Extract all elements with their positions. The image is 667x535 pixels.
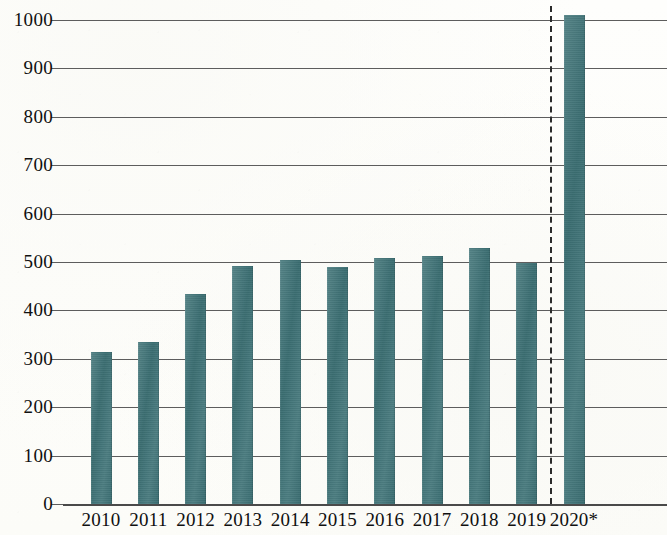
bar-2011	[138, 342, 159, 504]
bar-2016	[374, 258, 395, 504]
bar-2014	[280, 260, 301, 504]
bars-layer	[0, 0, 667, 535]
bar-2012	[185, 294, 206, 504]
bar-2018	[469, 248, 490, 504]
bar-2015	[327, 267, 348, 504]
bar-2010	[91, 352, 112, 504]
forecast-divider-dashed-line	[550, 6, 552, 504]
bar-2019	[516, 263, 537, 504]
bar-chart: 01002003004005006007008009001000 2010201…	[0, 0, 667, 535]
bar-2013	[232, 266, 253, 504]
bar-2020-projected	[564, 15, 585, 504]
x-axis-label-2020-projected: 2020*	[534, 509, 614, 530]
bar-2017	[422, 256, 443, 504]
